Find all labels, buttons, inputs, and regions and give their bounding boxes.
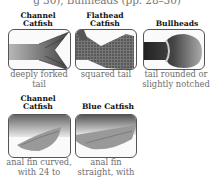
caption-line: tail <box>4 80 74 90</box>
label-channel-catfish-fin: Channel Catfish <box>10 95 66 111</box>
caption-line: straight, with <box>73 168 139 178</box>
label-line: Bullheads <box>146 20 208 28</box>
caption-curved-fin: anal fin curved, with 24 to <box>4 158 74 177</box>
curved-anal-fin-illustration-icon <box>8 114 71 158</box>
caption-line: squared tail <box>73 70 139 80</box>
caption-line: slightly notched <box>141 80 211 90</box>
label-line: Catfish <box>77 20 133 28</box>
label-flathead-catfish: Flathead Catfish <box>77 12 133 28</box>
label-line: Blue Catfish <box>75 103 141 111</box>
label-bullheads: Bullheads <box>146 12 208 28</box>
rounded-tail-illustration-icon <box>143 29 205 70</box>
label-line: Catfish <box>10 20 66 28</box>
label-blue-catfish: Blue Catfish <box>75 95 141 111</box>
label-line: Catfish <box>10 103 66 111</box>
caption-squared-tail: squared tail <box>73 70 139 80</box>
straight-anal-fin-illustration-icon <box>75 114 137 158</box>
caption-forked-tail: deeply forked tail <box>4 70 74 89</box>
forked-tail-illustration-icon <box>8 29 71 70</box>
header-text: g 30), Bullheads (pp. 28–30) <box>0 0 214 6</box>
caption-line: with 24 to <box>4 168 74 178</box>
squared-tail-illustration-icon <box>75 29 137 70</box>
caption-rounded-tail: tail rounded or slightly notched <box>141 70 211 89</box>
caption-straight-fin: anal fin straight, with <box>73 158 139 177</box>
label-channel-catfish-tail: Channel Catfish <box>10 12 66 28</box>
